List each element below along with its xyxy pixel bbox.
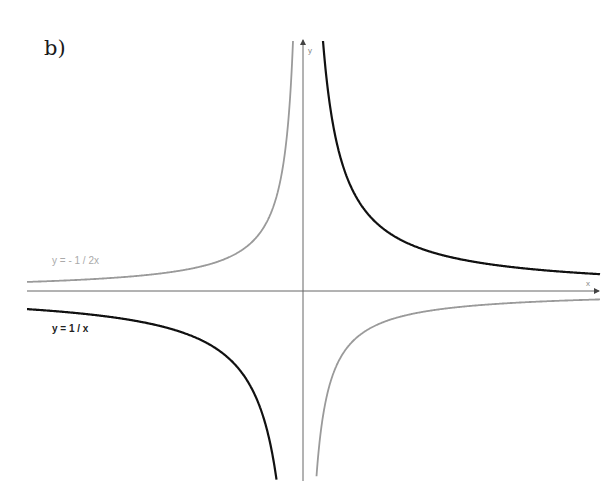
label-neg-half-inv: y = - 1 / 2x xyxy=(52,255,99,266)
curve-inv-left xyxy=(27,309,277,480)
curve-neg-half-inv-left xyxy=(27,41,293,282)
x-axis-label: x xyxy=(586,279,590,288)
hyperbola-chart: x y y = - 1 / 2x y = 1 / x xyxy=(0,0,607,481)
curve-neg-half-inv-right xyxy=(317,299,601,476)
label-inv: y = 1 / x xyxy=(52,323,89,334)
y-axis-label: y xyxy=(308,46,312,55)
curve-inv-right xyxy=(323,41,600,274)
